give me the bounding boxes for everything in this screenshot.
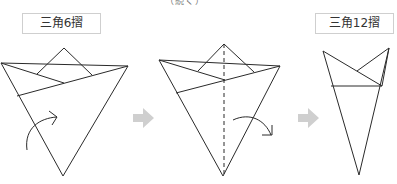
figure-triangle-12-fold — [323, 48, 389, 175]
figure-triangle-fold-half — [159, 44, 280, 176]
fold-diagram — [0, 0, 397, 184]
figure-triangle-6-fold — [1, 48, 128, 176]
